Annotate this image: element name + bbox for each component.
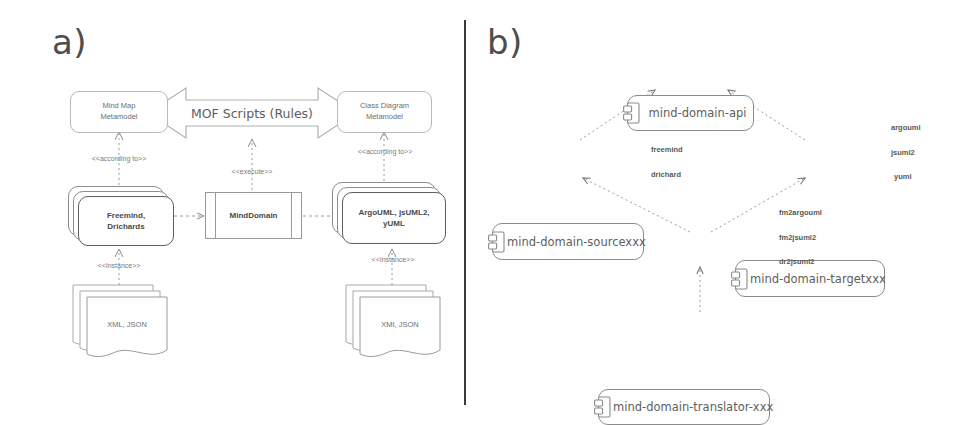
source-variant-freemind: freemind: [651, 145, 683, 154]
panel-divider: [464, 20, 466, 405]
classdiagram-metamodel-line1: Class Diagram: [360, 101, 409, 112]
uml-component-icon: [594, 396, 611, 418]
target-tools-stack: ArgoUML, jsUML2, yUML: [332, 182, 450, 248]
source-tools-line2: Drichards: [107, 221, 144, 232]
uml-component-icon: [623, 102, 640, 124]
stereotype-execute: <<execute>>: [212, 168, 292, 175]
stereotype-instance-left: <<Instance>>: [66, 262, 172, 269]
component-mind-domain-translator-xxx-label: mind-domain-translator-xxx: [599, 400, 773, 414]
uml-component-icon: [488, 231, 505, 253]
target-variant-yuml: yuml: [894, 172, 912, 181]
stereotype-instance-right: <<Instance>>: [340, 256, 446, 263]
component-mind-domain-api: mind-domain-api: [627, 95, 754, 131]
target-documents-stack: XMI, JSON: [345, 284, 450, 356]
target-doc-front: [359, 296, 441, 362]
component-mind-domain-sourcexxx-label: mind-domain-sourcexxx: [493, 235, 646, 249]
stereotype-according-to-left: <<according to>>: [64, 155, 174, 162]
target-tools-line2: yUML: [383, 218, 405, 229]
panel-a-letter: a): [52, 22, 87, 62]
source-tools-stack: Freemind, Drichards: [68, 186, 178, 250]
figure-canvas: a) Mind Map Metamodel Class Diagram Meta…: [0, 0, 965, 425]
component-mind-domain-api-label: mind-domain-api: [628, 106, 753, 120]
source-tools-line1: Freemind,: [107, 210, 145, 221]
mind-domain-engine-label: MindDomain: [230, 211, 278, 220]
mindmap-metamodel-line1: Mind Map: [103, 101, 136, 112]
target-tools-node: ArgoUML, jsUML2, yUML: [342, 192, 446, 244]
panel-b-letter: b): [487, 22, 523, 62]
mind-domain-engine-node: MindDomain: [205, 192, 302, 239]
component-mind-domain-sourcexxx: mind-domain-sourcexxx: [492, 223, 644, 260]
target-variant-jsuml2: jsuml2: [891, 148, 915, 157]
source-tools-node: Freemind, Drichards: [78, 196, 174, 246]
translator-variant-fm2jsuml2: fm2jsuml2: [779, 233, 816, 242]
source-documents-stack: XML, JSON: [72, 284, 177, 356]
mindmap-metamodel-line2: Metamodel: [100, 112, 137, 123]
source-variant-drichard: drichard: [651, 170, 681, 179]
target-variant-argouml: argouml: [891, 123, 921, 132]
source-doc-front: [86, 296, 168, 362]
mof-scripts-label: MOF Scripts (Rules): [148, 106, 356, 121]
source-documents-label: XML, JSON: [86, 320, 168, 329]
edge-translator-to-targetxxx: [711, 178, 805, 232]
classdiagram-metamodel-line2: Metamodel: [366, 112, 403, 123]
stereotype-according-to-right: <<according to>>: [330, 148, 440, 155]
translator-variant-fm2argouml: fm2argouml: [779, 208, 822, 217]
component-mind-domain-translator-xxx: mind-domain-translator-xxx: [598, 389, 770, 425]
translator-variant-dr2jsuml2: dr2jsuml2: [779, 257, 814, 266]
target-tools-line1: ArgoUML, jsUML2,: [358, 207, 429, 218]
component-mind-domain-targetxxx-label: mind-domain-targetxxx: [736, 272, 886, 286]
target-documents-label: XMI, JSON: [359, 320, 441, 329]
uml-component-icon: [731, 268, 748, 290]
